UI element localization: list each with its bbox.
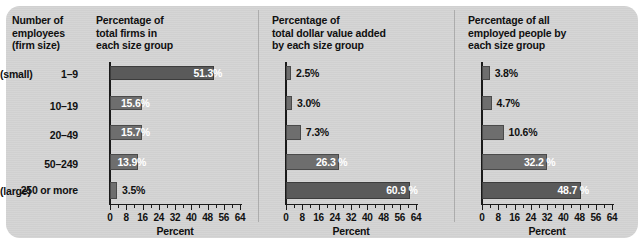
- x-tick-major: [175, 205, 176, 210]
- bar-value-label: 4.7%: [497, 97, 520, 109]
- panel-divider-1: [258, 10, 259, 222]
- x-tick-label: 24: [329, 212, 340, 223]
- bar-value-label: 3.8%: [495, 67, 518, 79]
- x-tick-minor: [167, 205, 168, 208]
- x-tick-major: [143, 205, 144, 210]
- x-tick-major: [482, 205, 483, 210]
- panel-title-dollar-value: Percentage of total dollar value added b…: [272, 14, 430, 52]
- bar-value-label: 15.6%: [121, 97, 150, 109]
- x-tick-minor: [134, 205, 135, 208]
- x-tick-label: 24: [525, 212, 536, 223]
- x-tick-label: 0: [283, 212, 288, 223]
- bar-value-label: 3.5%: [122, 184, 145, 196]
- x-tick-label: 16: [313, 212, 324, 223]
- x-tick-minor: [118, 205, 119, 208]
- bar-value-label: 48.7 %: [557, 184, 589, 196]
- x-tick-major: [302, 205, 303, 210]
- x-tick-major: [159, 205, 160, 210]
- row-label-1-9: (small) 1–9: [0, 68, 78, 80]
- x-tick-major: [547, 205, 548, 210]
- bar-value-label: 10.6%: [509, 126, 538, 138]
- x-tick-major: [240, 205, 241, 210]
- x-tick-label: 48: [202, 212, 213, 223]
- firm-size-column: Number of employees (firm size): [12, 14, 90, 52]
- x-tick-major: [286, 205, 287, 210]
- bar-value-label: 32.2 %: [524, 156, 556, 168]
- x-tick-minor: [151, 205, 152, 208]
- x-tick-minor: [539, 205, 540, 208]
- x-tick-minor: [555, 205, 556, 208]
- x-tick-major: [515, 205, 516, 210]
- x-tick-label: 32: [170, 212, 181, 223]
- x-tick-label: 8: [124, 212, 129, 223]
- bar: [482, 66, 490, 80]
- x-tick-major: [531, 205, 532, 210]
- x-tick-major: [580, 205, 581, 210]
- row-label-250-more: (large) 250 or more: [0, 185, 78, 197]
- x-tick-label: 64: [411, 212, 422, 223]
- x-tick-minor: [294, 205, 295, 208]
- x-tick-label: 24: [153, 212, 164, 223]
- bar: [482, 125, 504, 140]
- bar-value-label: 7.3%: [306, 126, 329, 138]
- row-range-20-49: 20–49: [0, 129, 78, 141]
- bar: [286, 125, 301, 140]
- chart-panel-total-firms: Percentage of total firms in each size g…: [96, 0, 256, 232]
- x-tick-minor: [408, 205, 409, 208]
- x-tick-label: 56: [218, 212, 229, 223]
- x-tick-major: [563, 205, 564, 210]
- x-tick-minor: [232, 205, 233, 208]
- x-tick-label: 16: [509, 212, 520, 223]
- x-tick-label: 32: [346, 212, 357, 223]
- x-tick-minor: [506, 205, 507, 208]
- panel-title-total-firms: Percentage of total firms in each size g…: [96, 14, 246, 52]
- x-tick-minor: [310, 205, 311, 208]
- x-tick-label: 16: [137, 212, 148, 223]
- bar: [482, 96, 492, 110]
- x-axis-title: Percent: [156, 225, 193, 237]
- row-range-50-249: 50–249: [0, 158, 78, 170]
- plot-area-dollar-value: 2.5%3.0%7.3%26.3 %60.9 %0816243240485664…: [272, 62, 428, 232]
- bar-value-label: 2.5%: [296, 67, 319, 79]
- large-annotation: (large): [0, 185, 31, 197]
- x-tick-minor: [604, 205, 605, 208]
- x-tick-major: [335, 205, 336, 210]
- bar-value-label: 15.7%: [121, 126, 150, 138]
- x-tick-label: 8: [496, 212, 501, 223]
- chart-panel-employed-people: Percentage of all employed people by eac…: [468, 0, 628, 232]
- bar-value-label: 26.3 %: [316, 156, 348, 168]
- plot-area-employed-people: 3.8%4.7%10.6%32.2 %48.7 %081624324048566…: [468, 62, 624, 232]
- x-tick-minor: [216, 205, 217, 208]
- x-tick-label: 64: [235, 212, 246, 223]
- x-tick-major: [400, 205, 401, 210]
- row-label-50-249: 50–249: [0, 158, 78, 170]
- x-tick-label: 64: [607, 212, 618, 223]
- x-tick-minor: [588, 205, 589, 208]
- x-tick-major: [498, 205, 499, 210]
- x-tick-major: [126, 205, 127, 210]
- bar-value-label: 3.0%: [297, 97, 320, 109]
- x-tick-major: [208, 205, 209, 210]
- x-tick-label: 8: [300, 212, 305, 223]
- chart-panel-dollar-value: Percentage of total dollar value added b…: [272, 0, 432, 232]
- bar: [110, 182, 117, 199]
- x-tick-major: [319, 205, 320, 210]
- bar: [286, 66, 291, 80]
- figure-root: Number of employees (firm size) (small) …: [0, 0, 644, 244]
- x-tick-minor: [490, 205, 491, 208]
- panels-container: Number of employees (firm size) (small) …: [0, 0, 644, 244]
- x-tick-major: [416, 205, 417, 210]
- x-tick-minor: [183, 205, 184, 208]
- panel-divider-2: [454, 10, 455, 222]
- row-label-20-49: 20–49: [0, 129, 78, 141]
- x-tick-minor: [375, 205, 376, 208]
- x-tick-label: 48: [378, 212, 389, 223]
- x-tick-label: 56: [394, 212, 405, 223]
- row-label-10-19: 10–19: [0, 100, 78, 112]
- x-tick-major: [367, 205, 368, 210]
- x-tick-label: 40: [362, 212, 373, 223]
- x-axis-title: Percent: [332, 225, 369, 237]
- x-tick-minor: [327, 205, 328, 208]
- x-tick-label: 56: [590, 212, 601, 223]
- x-tick-minor: [359, 205, 360, 208]
